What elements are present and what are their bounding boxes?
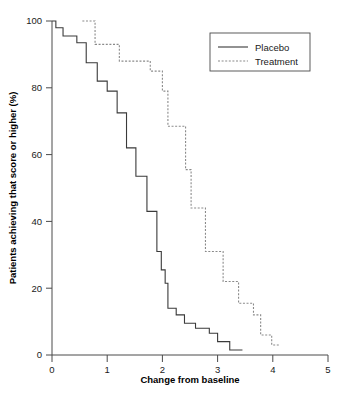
chart-figure: 020406080100 012345 Placebo Treatment Ch… [0,0,343,401]
x-tick-label: 4 [270,364,275,375]
chart-legend: Placebo Treatment [210,33,310,71]
x-axis-ticks: 012345 [49,355,330,375]
y-tick-label: 100 [26,15,42,26]
y-axis-ticks: 020406080100 [26,15,52,360]
x-tick-label: 0 [49,364,54,375]
y-axis-title: Patients achieving that score or higher … [7,92,18,285]
x-tick-label: 1 [105,364,110,375]
y-tick-label: 80 [31,82,42,93]
y-tick-label: 40 [31,216,42,227]
y-tick-label: 60 [31,149,42,160]
legend-label-treatment: Treatment [255,56,298,67]
legend-label-placebo: Placebo [255,42,289,53]
y-tick-label: 20 [31,283,42,294]
y-tick-label: 0 [37,349,42,360]
step-chart-svg: 020406080100 012345 Placebo Treatment Ch… [0,0,343,401]
x-tick-label: 5 [325,364,330,375]
x-axis-title: Change from baseline [140,374,239,385]
